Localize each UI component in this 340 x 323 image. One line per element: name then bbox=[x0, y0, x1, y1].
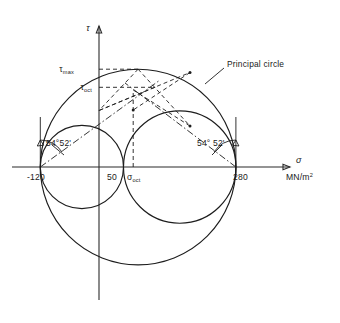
tau-axis-label: τ bbox=[86, 23, 90, 33]
construction-dashed-group bbox=[99, 69, 190, 167]
angle-ray-left bbox=[40, 80, 160, 167]
angle-label-right: 54° 52' bbox=[197, 138, 225, 148]
tick-label-sigma-min: -120 bbox=[27, 172, 45, 182]
tick-label-sigma-mid: 50 bbox=[107, 172, 117, 182]
angle-label-left: 54°52' bbox=[46, 138, 71, 148]
construction-dashdot-group bbox=[40, 80, 236, 167]
mohr-circle-canvas: τ σ MN/m2 τmax τoct σoct -120 50 280 54°… bbox=[0, 0, 340, 323]
principal-circle-leader-line bbox=[205, 68, 224, 84]
construction-chord-f bbox=[133, 73, 190, 111]
mohr-circle-figure: τ σ MN/m2 τmax τoct σoct -120 50 280 54°… bbox=[0, 0, 340, 323]
sigma-oct-subscript: oct bbox=[132, 177, 140, 183]
tick-label-sigma-max: 280 bbox=[233, 172, 248, 182]
tau-max-subscript: max bbox=[63, 69, 74, 75]
sigma-axis-units-exponent: 2 bbox=[310, 172, 313, 178]
sigma-axis-units: MN/m2 bbox=[286, 172, 313, 183]
principal-circle-callout-label: Principal circle bbox=[227, 59, 284, 69]
labels-group: τ σ MN/m2 τmax τoct σoct -120 50 280 54°… bbox=[27, 23, 313, 183]
sigma-oct-label: σoct bbox=[127, 172, 141, 183]
tau-max-label: τmax bbox=[59, 64, 74, 75]
sigma-axis-units-text: MN/m bbox=[286, 172, 310, 182]
marker-point-upper-right bbox=[189, 71, 192, 74]
tau-oct-subscript: oct bbox=[84, 87, 92, 93]
sigma-axis-label: σ bbox=[296, 155, 302, 165]
marker-point-center-cross bbox=[132, 109, 135, 112]
marker-point-mid-right bbox=[189, 125, 192, 128]
principal-circle-callout-group bbox=[205, 68, 224, 84]
